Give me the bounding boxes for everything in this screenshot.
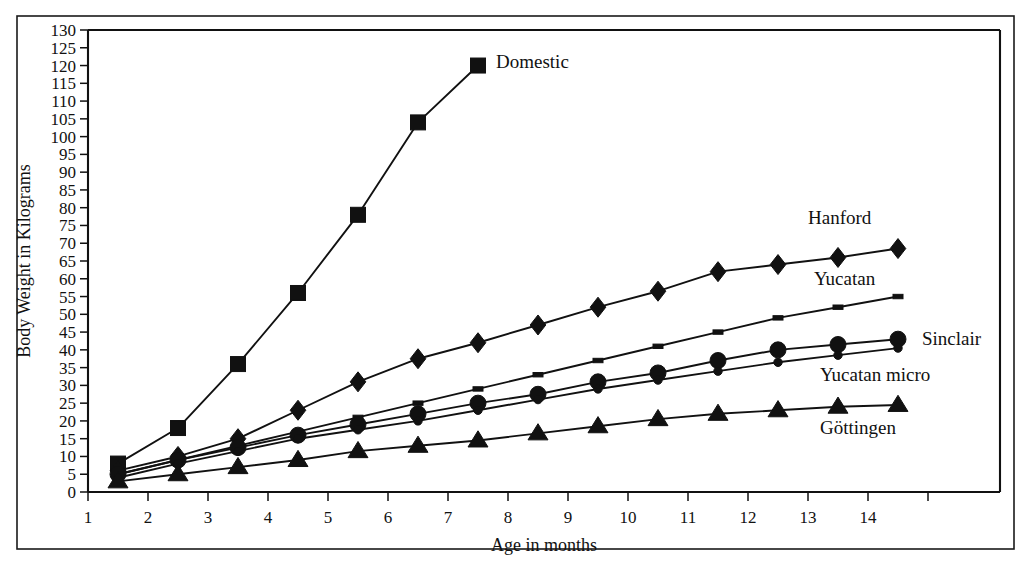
y-tick-label: 15 xyxy=(59,430,76,449)
figure-root: · · · 0510152025303540455055606570758085… xyxy=(0,0,1028,567)
series-marker xyxy=(708,404,728,420)
y-tick-label: 85 xyxy=(59,181,76,200)
y-tick-label: 125 xyxy=(51,39,77,58)
y-tick-label: 70 xyxy=(59,234,76,253)
x-tick-label: 3 xyxy=(204,508,213,527)
cropped-caption-text: · · · xyxy=(502,0,527,4)
series-marker xyxy=(474,406,482,414)
series-marker xyxy=(714,367,722,375)
y-tick-label: 0 xyxy=(68,483,77,502)
x-tick-label: 11 xyxy=(680,508,696,527)
series-marker xyxy=(893,294,903,298)
series-marker xyxy=(413,401,423,405)
series-marker xyxy=(411,115,426,130)
series-label-gottingen: Göttingen xyxy=(820,417,896,438)
y-tick-label: 130 xyxy=(51,21,77,40)
series-label-sinclair: Sinclair xyxy=(922,328,982,349)
series-marker xyxy=(653,344,663,348)
y-tick-label: 100 xyxy=(51,128,77,147)
series-marker xyxy=(534,395,542,403)
series-marker xyxy=(351,207,366,222)
x-tick-label: 4 xyxy=(264,508,273,527)
x-tick-label: 6 xyxy=(384,508,393,527)
series-marker xyxy=(774,358,782,366)
series-marker xyxy=(830,337,846,353)
series-label-hanford: Hanford xyxy=(808,207,872,228)
series-marker xyxy=(710,353,726,369)
series-marker xyxy=(894,344,902,352)
x-tick-label: 1 xyxy=(84,508,93,527)
y-tick-label: 5 xyxy=(68,465,77,484)
series-sinclair xyxy=(110,331,906,482)
series-marker xyxy=(650,281,666,301)
series-marker xyxy=(890,239,906,259)
x-axis-title: Age in months xyxy=(491,535,597,555)
growth-chart: 0510152025303540455055606570758085909510… xyxy=(0,0,1028,567)
x-tick-label: 2 xyxy=(144,508,153,527)
series-marker xyxy=(833,305,843,309)
series-marker xyxy=(350,372,366,392)
y-tick-label: 10 xyxy=(59,447,76,466)
y-tick-group: 0510152025303540455055606570758085909510… xyxy=(51,21,89,502)
y-tick-label: 80 xyxy=(59,199,76,218)
x-tick-label: 12 xyxy=(740,508,757,527)
x-tick-label: 5 xyxy=(324,508,333,527)
series-marker xyxy=(590,297,606,317)
series-marker xyxy=(234,447,242,455)
series-marker xyxy=(713,330,723,334)
series-marker xyxy=(294,434,302,442)
x-tick-group: 1234567891011121314 xyxy=(84,492,928,527)
y-tick-label: 45 xyxy=(59,323,76,342)
series-marker xyxy=(830,247,846,267)
series-label-yucatan: Yucatan xyxy=(814,268,876,289)
y-tick-label: 65 xyxy=(59,252,76,271)
series-label-domestic: Domestic xyxy=(496,51,569,72)
x-tick-label: 10 xyxy=(620,508,637,527)
series-marker xyxy=(414,417,422,425)
series-marker xyxy=(654,376,662,384)
series-marker xyxy=(291,285,306,300)
series-marker xyxy=(348,441,368,457)
y-tick-label: 110 xyxy=(51,92,76,111)
series-marker xyxy=(354,426,362,434)
y-tick-label: 90 xyxy=(59,163,76,182)
series-marker xyxy=(773,316,783,320)
series-marker xyxy=(594,385,602,393)
y-tick-label: 105 xyxy=(51,110,77,129)
series-group xyxy=(108,58,908,488)
series-marker xyxy=(231,357,246,372)
x-tick-label: 8 xyxy=(504,508,513,527)
x-tick-label: 13 xyxy=(800,508,817,527)
series-marker xyxy=(533,373,543,377)
y-tick-label: 120 xyxy=(51,57,77,76)
series-marker xyxy=(888,395,908,411)
series-marker xyxy=(408,436,428,452)
y-tick-label: 75 xyxy=(59,216,76,235)
x-tick-label: 7 xyxy=(444,508,453,527)
series-marker xyxy=(710,262,726,282)
series-marker xyxy=(473,387,483,391)
series-label-yucatan-micro: Yucatan micro xyxy=(820,364,930,385)
y-axis-title: Body Weight in Kilograms xyxy=(14,164,34,358)
series-marker xyxy=(648,409,668,425)
y-tick-label: 60 xyxy=(59,270,76,289)
cropped-caption-bleed: · · · xyxy=(0,0,1028,14)
y-tick-label: 25 xyxy=(59,394,76,413)
series-marker xyxy=(410,349,426,369)
series-marker xyxy=(768,401,788,417)
series-marker xyxy=(290,400,306,420)
y-tick-label: 40 xyxy=(59,341,76,360)
y-tick-label: 55 xyxy=(59,288,76,307)
series-marker xyxy=(770,342,786,358)
series-marker xyxy=(828,397,848,413)
series-marker xyxy=(834,351,842,359)
x-tick-label: 9 xyxy=(564,508,573,527)
series-marker xyxy=(593,358,603,362)
series-label-group: DomesticHanfordYucatanSinclairYucatan mi… xyxy=(496,51,982,438)
series-marker xyxy=(470,333,486,353)
y-tick-label: 30 xyxy=(59,376,76,395)
series-hanford xyxy=(110,239,906,481)
y-tick-label: 95 xyxy=(59,145,76,164)
x-tick-label: 14 xyxy=(860,508,878,527)
series-marker xyxy=(770,255,786,275)
